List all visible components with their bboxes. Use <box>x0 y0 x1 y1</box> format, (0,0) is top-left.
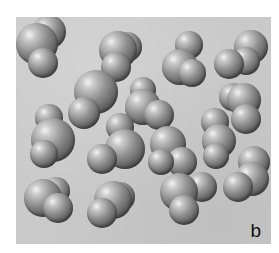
atom-sphere <box>223 172 253 202</box>
atom-sphere <box>203 143 229 169</box>
panel-label: b <box>250 221 261 240</box>
atom-sphere <box>87 144 117 174</box>
atom-sphere <box>148 149 174 175</box>
atom-sphere <box>169 195 199 225</box>
figure-panel: b <box>16 17 271 244</box>
atom-sphere <box>43 193 73 223</box>
atom-sphere <box>28 48 58 78</box>
atom-sphere <box>231 104 261 134</box>
atom-sphere <box>178 59 206 87</box>
atom-sphere <box>214 49 244 79</box>
atom-sphere <box>87 198 117 228</box>
atom-sphere <box>68 97 100 129</box>
atom-sphere <box>30 140 58 168</box>
